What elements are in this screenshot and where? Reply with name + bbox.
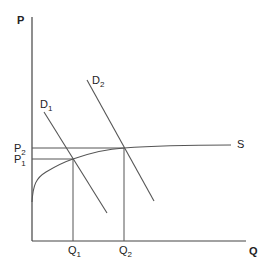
s-label: S xyxy=(237,138,244,150)
q1-label: Q1 xyxy=(68,244,82,259)
supply-curve xyxy=(32,145,231,202)
demand-curve-d2 xyxy=(87,80,154,201)
d2-label: D2 xyxy=(92,74,105,89)
p-axis-label: P xyxy=(17,14,24,26)
demand-curve-d1 xyxy=(44,112,107,213)
d1-label: D1 xyxy=(40,98,53,113)
q-axis-label: Q xyxy=(249,245,258,257)
q2-label: Q2 xyxy=(119,244,133,259)
supply-demand-diagram: P Q P2 P1 Q1 Q2 D1 D2 S xyxy=(0,0,270,266)
